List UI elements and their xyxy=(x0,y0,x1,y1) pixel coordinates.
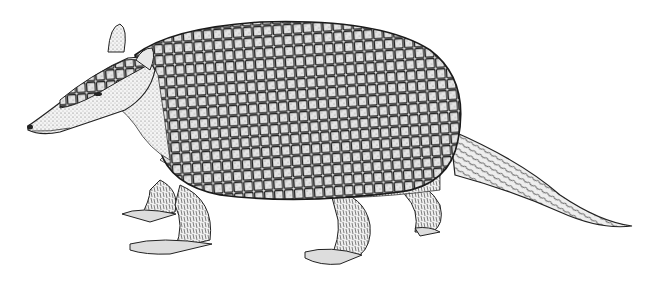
eye xyxy=(94,92,102,96)
carapace xyxy=(135,22,461,200)
armadillo-illustration xyxy=(0,0,663,283)
front-foot-near xyxy=(130,240,212,254)
ear-back xyxy=(108,24,125,52)
front-leg-near xyxy=(175,185,211,248)
hind-leg-near xyxy=(330,190,370,258)
nose xyxy=(27,125,33,130)
tail xyxy=(450,130,632,227)
